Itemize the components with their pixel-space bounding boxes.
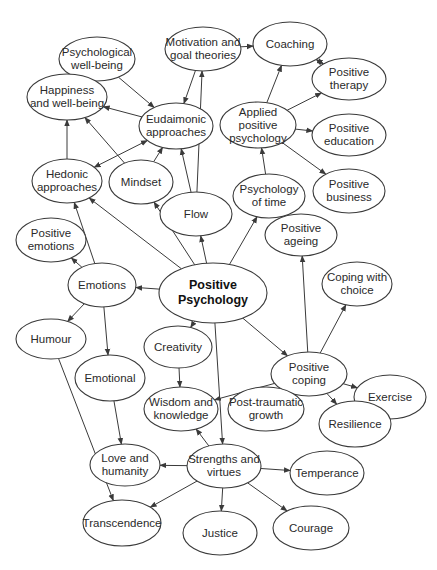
node-happiness [27,74,107,120]
edge-applied-to-positive_therapy [287,93,321,110]
edge-positive_psychology-to-positive_coping [243,318,288,356]
node-positive-ageing [265,214,337,256]
node-mindset [109,160,173,204]
edge-creativity-to-wisdom [179,368,180,387]
node-post-traumatic [228,387,304,431]
node-positive-therapy [312,58,386,100]
edge-flow-to-eudaimonic [181,149,191,192]
node-justice [183,511,257,555]
edge-emotions-to-humour [68,304,85,322]
edge-positive_psychology-to-flow [201,236,207,263]
edge-positive_psychology-to-strengths [215,323,223,444]
node-wisdom [144,387,218,431]
node-flow [160,192,232,236]
node-positive-business [313,169,385,213]
node-applied [220,102,296,148]
edge-positive_psychology-to-creativity [191,321,195,327]
edge-psych_time-to-applied [262,148,266,174]
node-coaching [253,22,327,66]
edge-applied-to-positive_education [295,129,312,131]
node-coping-choice [322,262,392,306]
node-love [90,444,160,486]
node-temperance [290,451,364,495]
edge-positive_coping-to-positive_ageing [302,256,308,352]
node-resilience [319,401,391,447]
edge-mindset-to-eudaimonic [154,147,163,161]
edge-strengths-to-temperance [261,468,290,470]
edge-emotions-to-emotional [104,307,108,355]
edge-strengths-to-wisdom [196,429,209,446]
edge-strengths-to-courage [248,483,287,511]
node-strengths [187,444,261,488]
node-motivation [165,27,241,71]
node-hedonic [32,159,102,203]
node-emotions [68,263,136,307]
node-humour [16,319,86,359]
edge-coaching-to-positive_therapy [316,60,323,64]
node-eudaimonic [139,103,213,149]
node-emotional [75,355,145,401]
node-creativity [144,326,212,368]
edge-psych_wellbeing-to-eudaimonic [118,77,154,107]
node-positive-education [312,114,386,156]
edge-strengths-to-transcendence [150,481,197,507]
node-positive-emotions [16,218,86,262]
edge-strengths-to-justice [221,488,222,511]
edge-applied-to-coaching [267,65,282,102]
edge-positive_coping-to-coping_choice [320,305,346,353]
edge-positive_coping-to-resilience [327,393,337,404]
node-courage [273,506,349,550]
edge-eudaimonic-to-happiness [103,107,142,117]
edge-motivation-to-coaching [241,46,253,47]
edge-emotional-to-love [114,401,121,444]
concept-map-canvas: Psychological well-beingMotivation and g… [0,0,437,570]
edge-mindset-to-happiness [85,118,125,164]
node-positive-psychology [159,263,267,323]
edges-layer [0,0,437,570]
edge-positive_psychology-to-emotions [136,287,160,289]
edge-emotions-to-positive_emotions [71,258,82,267]
node-transcendence [83,500,161,546]
node-psych-time [233,174,305,218]
edge-motivation-to-eudaimonic [184,71,196,104]
edge-positive_coping-to-exercise [343,384,357,388]
edge-positive_psychology-to-psych_time [229,217,257,265]
